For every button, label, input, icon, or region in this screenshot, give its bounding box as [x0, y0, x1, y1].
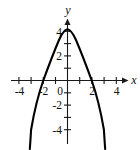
x-axis-arrow-right-icon [122, 78, 129, 84]
coordinate-plane-svg: -4 -2 0 2 4 4 2 -2 -4 y x [0, 0, 140, 150]
y-axis-name-label: y [64, 3, 71, 17]
x-tick-label-2: 2 [89, 85, 95, 97]
x-axis-name-label: x [130, 73, 137, 87]
y-tick-label-minus2: -2 [52, 99, 62, 111]
x-tick-label-minus4: -4 [15, 85, 25, 97]
y-tick-label-2: 2 [56, 50, 62, 62]
x-tick-label-minus2: -2 [39, 85, 49, 97]
parabola-graph-figure: -4 -2 0 2 4 4 2 -2 -4 y x [0, 0, 140, 150]
y-axis-arrow-up-icon [65, 19, 71, 26]
x-tick-label-4: 4 [114, 85, 120, 97]
y-tick-label-minus4: -4 [52, 124, 62, 136]
y-tick-label-4: 4 [56, 26, 62, 38]
x-axis [11, 77, 129, 84]
x-tick-label-zero: 0 [57, 85, 63, 97]
y-axis [64, 19, 71, 145]
